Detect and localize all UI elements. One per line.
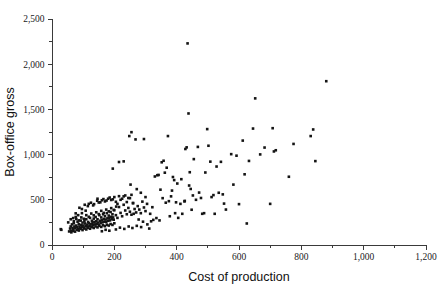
data-point — [288, 175, 291, 178]
data-point — [175, 201, 178, 204]
data-point — [83, 203, 86, 206]
data-point — [269, 203, 272, 206]
data-point — [90, 212, 93, 215]
data-point — [67, 221, 70, 224]
data-point — [118, 161, 121, 164]
data-point — [100, 216, 103, 219]
data-point — [77, 214, 80, 217]
data-point — [128, 135, 131, 138]
data-point — [151, 206, 154, 209]
plot-area: 02004006008001,0001,200 05001,0001,5002,… — [0, 0, 445, 287]
data-point — [213, 213, 216, 216]
data-point — [169, 215, 172, 218]
data-point — [230, 153, 233, 156]
data-point — [121, 215, 124, 218]
data-point — [81, 208, 84, 211]
data-point — [111, 167, 114, 170]
data-point — [85, 218, 88, 221]
data-point — [107, 214, 110, 217]
data-point — [188, 171, 191, 174]
y-tick-label: 500 — [30, 195, 45, 205]
data-point — [189, 188, 192, 191]
data-point — [180, 178, 183, 181]
y-axis-tick-labels: 05001,0001,5002,0002,500 — [23, 14, 45, 250]
x-tick-label: 1,200 — [415, 252, 437, 262]
data-point — [144, 210, 147, 213]
data-point — [133, 208, 136, 211]
data-point — [271, 127, 274, 130]
data-point — [174, 212, 177, 215]
data-point — [220, 161, 223, 164]
x-tick-label: 800 — [294, 252, 309, 262]
data-point — [176, 182, 179, 185]
data-point — [186, 42, 189, 45]
x-tick-label: 1,000 — [353, 252, 375, 262]
data-point — [138, 208, 141, 211]
data-point — [185, 146, 188, 149]
data-point — [221, 193, 224, 196]
data-point — [204, 171, 207, 174]
data-point — [104, 200, 107, 203]
data-point — [123, 228, 126, 231]
data-point — [80, 216, 83, 219]
x-axis-ticks — [52, 245, 426, 250]
data-point — [212, 194, 215, 197]
data-point — [241, 139, 244, 142]
data-point — [110, 207, 113, 210]
data-point — [60, 229, 63, 232]
data-point — [127, 225, 130, 228]
data-point — [78, 219, 81, 222]
data-point — [81, 212, 84, 215]
y-axis-title: Box-office gross — [3, 87, 17, 176]
data-point — [104, 229, 107, 232]
data-point — [161, 197, 164, 200]
data-point — [149, 213, 152, 216]
data-point — [122, 160, 125, 163]
data-point — [140, 212, 143, 215]
data-point — [192, 194, 195, 197]
y-tick-label: 2,000 — [23, 60, 45, 70]
data-point — [113, 222, 116, 225]
data-point — [115, 214, 118, 217]
data-point — [97, 201, 100, 204]
data-point — [101, 230, 104, 233]
data-point — [252, 127, 255, 130]
data-point — [96, 197, 99, 200]
data-point — [78, 206, 81, 209]
data-point — [164, 201, 167, 204]
data-point — [134, 138, 137, 141]
data-point — [146, 223, 149, 226]
data-point — [116, 217, 119, 220]
data-point — [312, 128, 315, 131]
data-point — [225, 208, 228, 211]
data-point — [165, 166, 168, 169]
data-point — [325, 80, 328, 83]
y-tick-label: 1,500 — [23, 105, 45, 115]
data-point — [198, 191, 201, 194]
data-point — [87, 203, 90, 206]
data-point — [73, 220, 76, 223]
data-point — [195, 199, 198, 202]
data-point — [104, 215, 107, 218]
x-axis-title: Cost of production — [188, 270, 289, 284]
data-point — [146, 203, 149, 206]
data-point — [87, 205, 90, 208]
data-point — [177, 217, 180, 220]
data-point — [172, 176, 175, 179]
data-point — [263, 146, 266, 149]
data-point — [119, 199, 122, 202]
data-point — [164, 171, 167, 174]
data-point — [92, 214, 95, 217]
data-point — [102, 212, 105, 215]
data-point — [74, 212, 77, 215]
data-point — [197, 146, 200, 149]
data-point — [87, 216, 90, 219]
data-point — [78, 223, 81, 226]
data-point — [158, 219, 161, 222]
data-point — [168, 200, 171, 203]
data-point — [143, 206, 146, 209]
data-point — [215, 165, 218, 168]
data-point — [111, 213, 114, 216]
y-tick-label: 2,500 — [23, 14, 45, 24]
data-point — [223, 202, 226, 205]
